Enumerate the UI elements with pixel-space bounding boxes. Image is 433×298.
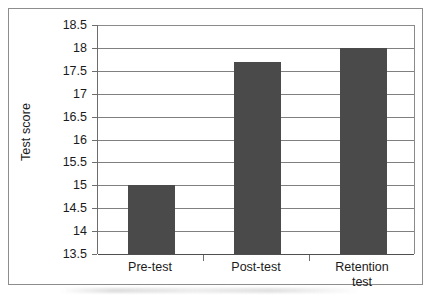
plot-area [97,25,415,254]
bar-post-test [234,62,281,254]
y-axis-tick-label: 14.5 [35,202,87,214]
y-axis-tick-label: 13.5 [35,248,87,260]
x-axis-label-line: test [352,275,372,289]
y-axis-tick-label: 14 [35,225,87,237]
x-axis-label-line: Pre-test [128,260,172,274]
x-axis-label-pre-test: Pre-test [97,260,203,275]
y-axis-tick-label: 16.5 [35,111,87,123]
bar-chart-figure: Test score 18.51817.51716.51615.51514.51… [0,0,433,298]
y-axis-tick-label: 16 [35,134,87,146]
y-axis-tick-label: 15 [35,179,87,191]
gridline [98,254,414,255]
y-axis-title: Test score [19,87,33,177]
y-axis-tick-label: 18 [35,42,87,54]
x-axis-label-line: Retention [335,260,389,274]
y-axis-tick-label: 17.5 [35,65,87,77]
y-axis-tick-label: 15.5 [35,156,87,168]
bar-retention-test [340,48,387,254]
bar-pre-test [128,185,175,254]
x-axis-label-line: Post-test [231,260,280,274]
x-axis-label-post-test: Post-test [203,260,309,275]
y-axis-tick-label: 17 [35,88,87,100]
x-axis-label-retention-test: Retentiontest [309,260,415,289]
y-axis-tick-mark [92,254,97,255]
gridline [98,25,414,26]
y-axis-tick-label: 18.5 [35,19,87,31]
